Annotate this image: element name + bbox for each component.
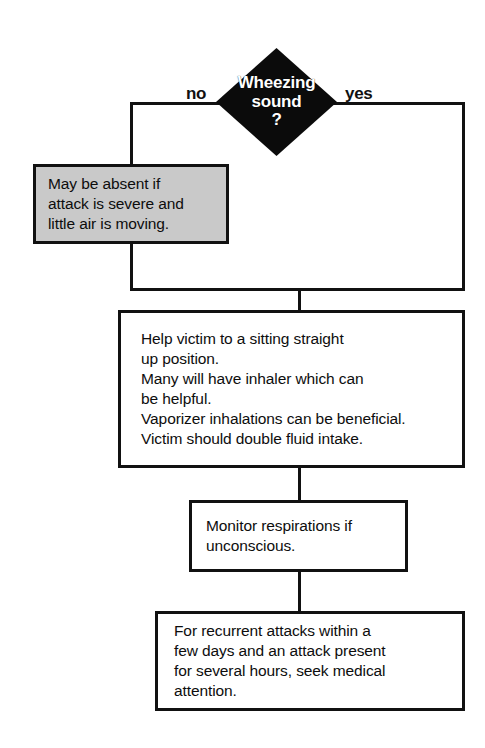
help-box-text: Help victim to a sitting straight up pos… [121,329,462,450]
process-box-monitor-respirations[interactable]: Monitor respirations if unconscious. [189,500,408,572]
note-box-text: May be absent if attack is severe and li… [36,174,226,234]
connector-monitor-to-followup [298,570,301,612]
connector-merge-stub [298,288,301,312]
decision-node-wheezing-sound[interactable]: Wheezing sound ? [216,48,337,156]
branch-label-yes: yes [345,84,372,104]
process-box-help-victim[interactable]: Help victim to a sitting straight up pos… [118,310,465,468]
decision-label: Wheezing sound ? [238,74,316,129]
connector-no-horizontal [130,102,222,105]
note-box-wheezing-may-be-absent[interactable]: May be absent if attack is severe and li… [33,164,229,244]
process-box-seek-medical-attention[interactable]: For recurrent attacks within a few days … [155,611,465,711]
branch-label-no: no [186,84,206,104]
flowchart-canvas: Wheezing sound ? no yes May be absent if… [0,0,485,748]
monitor-box-text: Monitor respirations if unconscious. [192,516,405,556]
connector-help-to-monitor [298,466,301,502]
followup-box-text: For recurrent attacks within a few days … [158,621,462,702]
connector-yes-vertical [462,102,465,291]
